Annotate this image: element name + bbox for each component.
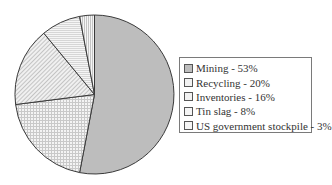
legend-label: Inventories - 16% xyxy=(196,91,275,103)
legend-item-tin-slag: Tin slag - 8% xyxy=(184,104,311,118)
legend-item-us-stockpile: US government stockpile - 3% xyxy=(184,119,311,133)
legend-swatch-icon xyxy=(184,121,193,130)
legend-swatch-icon xyxy=(184,64,193,73)
legend-swatch-icon xyxy=(184,92,193,101)
legend-item-inventories: Inventories - 16% xyxy=(184,90,311,104)
legend-label: Tin slag - 8% xyxy=(196,105,255,117)
legend-label: Recycling - 20% xyxy=(196,77,270,89)
legend-item-recycling: Recycling - 20% xyxy=(184,75,311,89)
legend-swatch-icon xyxy=(184,107,193,116)
legend-swatch-icon xyxy=(184,78,193,87)
legend-label: US government stockpile - 3% xyxy=(196,120,332,132)
chart-legend: Mining - 53% Recycling - 20% Inventories… xyxy=(179,57,312,133)
legend-item-mining: Mining - 53% xyxy=(184,61,311,75)
legend-label: Mining - 53% xyxy=(196,62,258,74)
